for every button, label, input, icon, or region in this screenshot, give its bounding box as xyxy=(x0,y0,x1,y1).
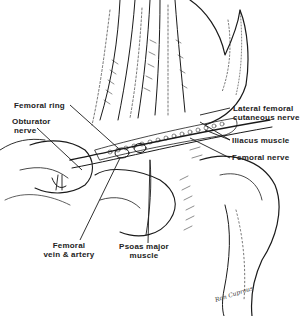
label-femoral-ring: Femoral ring xyxy=(14,101,65,110)
label-femoral-vessels-line1: Femoral xyxy=(34,241,104,250)
label-lateral-femoral-line2: cutaneous nerve xyxy=(233,113,300,122)
label-psoas-major-line2: muscle xyxy=(104,251,184,260)
label-lateral-femoral-line1: Lateral femoral xyxy=(233,104,293,113)
label-obturator-nerve-line2: nerve xyxy=(14,126,36,135)
label-iliacus-muscle: Iliacus muscle xyxy=(232,136,290,145)
label-psoas-major-line1: Psoas major xyxy=(104,242,184,251)
label-femoral-vessels-line2: vein & artery xyxy=(34,250,104,259)
label-obturator-nerve-line1: Obturator xyxy=(12,117,51,126)
label-femoral-nerve: Femoral nerve xyxy=(232,153,289,162)
